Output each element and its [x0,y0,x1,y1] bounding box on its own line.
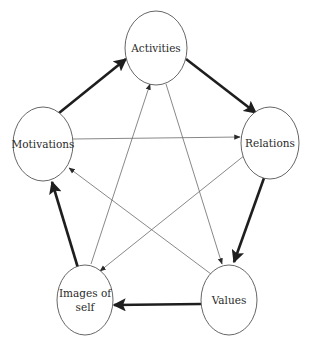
edge-activities-to-relations [186,59,256,113]
edge-activities-to-values [166,84,222,264]
node-activities: Activities [125,11,187,85]
node-values: Values [201,265,257,335]
svg-text:Activities: Activities [130,42,181,54]
edge-relations-to-values [234,178,264,262]
svg-text:self: self [76,301,96,313]
edge-motivations-to-relations [73,137,240,139]
edge-values-to-images [114,304,201,305]
node-activities-label: Activities [130,42,181,54]
node-values-label: Values [211,294,247,306]
node-motivations-label: Motivations [12,138,75,150]
svg-text:Motivations: Motivations [12,138,75,150]
node-images-label-line2: self [76,301,96,313]
edge-images-to-activities [91,84,150,264]
node-motivations: Motivations [12,107,75,181]
node-images-of-self: Images of self [57,265,113,335]
node-images-label-line1: Images of [59,287,112,299]
cycle-diagram: Activities Relations Values Images of se… [0,0,309,348]
svg-text:Values: Values [211,294,247,306]
svg-text:Relations: Relations [245,137,295,149]
node-relations: Relations [241,107,299,179]
edge-images-to-motivations [52,182,78,268]
edge-relations-to-images [100,155,245,271]
node-relations-label: Relations [245,137,295,149]
edge-values-to-motivations [69,168,211,274]
svg-text:Images of: Images of [59,287,112,299]
edge-motivations-to-activities [59,59,126,113]
